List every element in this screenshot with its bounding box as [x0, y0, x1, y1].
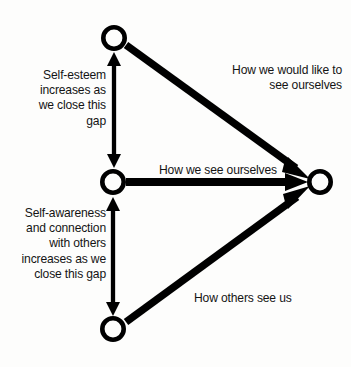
- diagram-canvas: Self-esteem increases as we close this g…: [0, 0, 351, 367]
- self-image-label: How we see ourselves: [136, 163, 300, 178]
- diagram-graphic: [0, 0, 351, 367]
- node-self-image[interactable]: [102, 171, 123, 192]
- self-esteem-label: Self-esteem increases as we close this g…: [8, 68, 106, 129]
- node-person[interactable]: [309, 171, 330, 192]
- gap-arrow-self-awareness: [106, 197, 120, 316]
- node-others-view[interactable]: [102, 318, 123, 339]
- others-view-label: How others see us: [194, 291, 330, 306]
- gap-arrow-self-esteem: [107, 52, 121, 168]
- ideal-self-label: How we would like to see ourselves: [196, 63, 342, 93]
- node-ideal-self[interactable]: [103, 27, 124, 48]
- self-awareness-label: Self-awareness and connection with other…: [2, 206, 106, 282]
